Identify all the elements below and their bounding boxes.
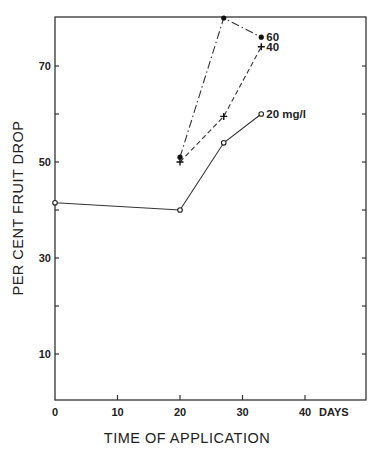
plot-frame xyxy=(55,17,366,400)
data-point-filled-circle xyxy=(221,15,226,20)
data-point-open-circle xyxy=(53,201,58,206)
chart-canvas: 010203040 10305070 20 mg/l4060 DAYS TIME… xyxy=(0,0,380,450)
fruit-drop-chart: 010203040 10305070 20 mg/l4060 DAYS TIME… xyxy=(0,0,380,450)
x-tick-label: 10 xyxy=(111,406,123,418)
series-label: 20 mg/l xyxy=(266,108,306,120)
y-tick-label: 30 xyxy=(39,252,51,264)
x-tick-label: 30 xyxy=(236,406,248,418)
data-point-filled-circle xyxy=(259,35,264,40)
y-axis-ticks: 10305070 xyxy=(39,60,366,360)
y-tick-label: 70 xyxy=(39,60,51,72)
data-point-open-circle xyxy=(178,208,183,213)
x-tick-label: 0 xyxy=(52,406,58,418)
series-line-60 xyxy=(180,18,261,157)
x-axis-title: TIME OF APPLICATION xyxy=(104,430,270,446)
series-line-20-mg-l xyxy=(55,114,261,210)
data-series xyxy=(53,15,265,212)
data-point-filled-circle xyxy=(177,155,182,160)
series-labels: 20 mg/l4060 xyxy=(266,31,306,120)
x-tick-label: 20 xyxy=(174,406,186,418)
y-tick-label: 50 xyxy=(39,156,51,168)
series-line-40 xyxy=(180,47,261,162)
x-tick-label: 40 xyxy=(299,406,311,418)
y-axis-title: PER CENT FRUIT DROP xyxy=(10,121,26,296)
data-point-plus xyxy=(258,43,265,50)
data-point-open-circle xyxy=(221,141,226,146)
x-axis-ticks: 010203040 xyxy=(52,395,311,418)
series-label: 60 xyxy=(266,31,279,43)
x-axis-unit-label: DAYS xyxy=(319,406,349,418)
y-tick-label: 10 xyxy=(39,348,51,360)
data-point-open-circle xyxy=(259,112,264,117)
